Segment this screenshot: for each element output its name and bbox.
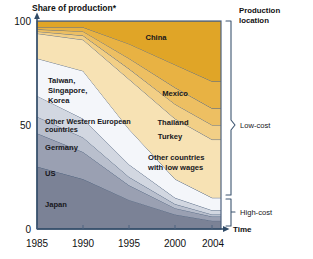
y-tick-100: 100 [14,16,31,27]
band-label-taiwan-3: Korea [48,96,70,105]
band-label-taiwan-1: Taiwan, [48,76,75,85]
chart-title: Share of production* [32,3,117,13]
band-label-other-low-wages-1: Other countries [148,153,205,162]
band-label-germany: Germany [45,143,79,152]
band-label-us: US [45,169,56,178]
band-label-other-low-wages-2: with low wages [147,163,203,172]
y-tick-0: 0 [25,224,31,235]
legend-high-cost: High-cost [240,208,273,217]
x-axis-title: Time [233,225,252,234]
chart-canvas: 100 50 0 1985 1990 1995 2000 2004 Share … [0,0,313,259]
legend-title-line1: Production [239,6,280,15]
x-tick-2000: 2000 [164,238,187,249]
legend-low-cost: Low-cost [240,121,271,130]
x-tick-2004: 2004 [202,238,225,249]
band-label-thailand: Thailand [157,118,189,127]
band-label-mexico: Mexico [162,89,188,98]
band-label-japan: Japan [45,200,67,209]
y-tick-50: 50 [20,120,32,131]
band-label-taiwan-2: Singapore, [48,86,87,95]
x-tick-1990: 1990 [72,238,95,249]
legend-title-line2: location [239,16,269,25]
band-label-other-weur-2: countries [45,125,78,134]
stacked-area-chart: 100 50 0 1985 1990 1995 2000 2004 Share … [0,0,313,259]
x-tick-1985: 1985 [26,238,49,249]
band-label-china: China [145,33,167,42]
band-label-turkey: Turkey [158,132,183,141]
x-tick-1995: 1995 [118,238,141,249]
